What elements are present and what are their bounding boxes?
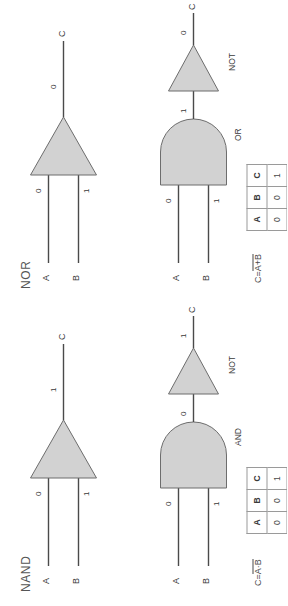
not-gate-shape-nor [168,45,218,91]
nor-gate-symbol [30,117,96,175]
or-gate-label: OR [232,128,242,141]
nand-eq-input-a-value: 0 [163,502,172,506]
table-row: 0 1 0 [287,165,288,231]
not-gate-shape [168,348,218,394]
nor-equation-rhs: A+B [252,254,262,271]
and-gate-label: AND [232,428,242,446]
nand-schematics: A B 0 1 1 C A B 0 1 AND 0 NOT 1 C [0,303,287,606]
th-a: A [247,512,267,534]
cell-b: 1 [287,187,288,209]
table-row: 0 0 1 [267,165,287,231]
scanned-page: NAND [0,0,287,606]
table-header-row: A B C [247,468,267,534]
nor-symbol-input-a-label: A [40,275,50,281]
cell-c: 1 [267,165,287,187]
cell-a: 0 [267,209,287,231]
nor-symbol-input-b-value: 1 [81,189,90,193]
nand-gate-symbol [30,420,96,478]
table-row: 0 0 1 [267,468,287,534]
th-c: C [247,468,267,490]
nand-equation-rhs: A·B [252,559,262,574]
table-row: 0 1 1 [287,468,288,534]
nand-symbol-input-b-label: B [70,578,80,584]
or-gate-shape [160,119,226,185]
nand-symbol-output-value: 1 [48,388,57,392]
cell-a: 0 [287,512,288,534]
cell-c: 1 [287,468,288,490]
nand-eq-input-b-label: B [200,578,210,584]
cell-a: 0 [287,209,288,231]
not-gate-label-nand: NOT [226,356,236,374]
nand-symbol-input-b-value: 1 [81,492,90,496]
nand-symbol-input-a-label: A [40,578,50,584]
table-header-row: A B C [247,165,267,231]
nand-eq-output-label: C [186,307,196,314]
nor-eq-input-b-label: B [200,275,210,281]
and-gate-shape [160,422,226,488]
nor-eq-input-a-value: 0 [163,199,172,203]
th-a: A [247,209,267,231]
nor-eq-output-label: C [186,4,196,11]
section-nor: NOR A B 0 1 0 C A B 0 1 [0,0,287,303]
cell-c: 1 [267,468,287,490]
nand-symbol-output-label: C [56,334,66,341]
nor-schematics: A B 0 1 0 C A B 0 1 OR 1 NOT 0 C [0,0,287,303]
nand-equation: C=A·B [252,559,262,586]
th-b: B [247,187,267,209]
nor-symbol-output-value: 0 [48,85,57,89]
nor-eq-input-b-value: 1 [211,199,220,203]
nor-equation: C=A+B [252,254,262,283]
section-nand: NAND [0,303,287,606]
cell-a: 0 [267,512,287,534]
th-b: B [247,490,267,512]
nor-eq-output-value: 0 [178,31,187,35]
nor-equation-lhs: C= [252,271,262,283]
cell-c: 0 [287,165,288,187]
nand-eq-input-b-value: 1 [211,502,220,506]
nand-eq-output-value: 1 [178,334,187,338]
nor-eq-input-a-label: A [170,275,180,281]
nand-eq-input-a-label: A [170,578,180,584]
nand-eq-intermediate-value: 0 [178,412,187,416]
nor-symbol-input-b-label: B [70,275,80,281]
truth-table-nand: A B C 0 0 1 0 1 1 1 1 0 1 0 1 [246,467,287,534]
nor-eq-intermediate-value: 1 [178,109,187,113]
nor-symbol-input-a-value: 0 [33,189,42,193]
cell-b: 1 [287,490,288,512]
th-c: C [247,165,267,187]
cell-b: 0 [267,187,287,209]
nor-symbol-output-label: C [56,31,66,38]
cell-b: 0 [267,490,287,512]
not-gate-label-nor: NOT [226,53,236,71]
nand-equation-lhs: C= [252,574,262,586]
nand-symbol-input-a-value: 0 [33,492,42,496]
truth-table-nor: A B C 0 0 1 0 1 0 1 1 0 1 0 0 [246,164,287,231]
